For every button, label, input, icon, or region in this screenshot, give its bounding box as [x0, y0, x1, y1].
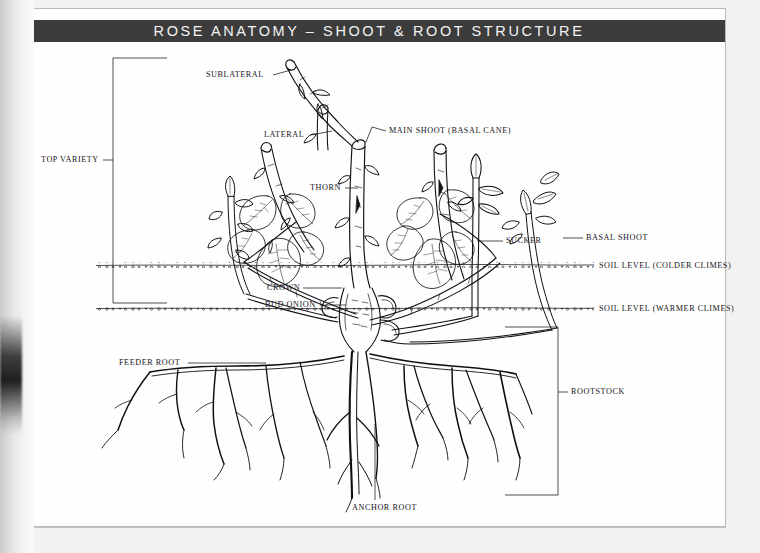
right-cane: [422, 144, 464, 280]
label-bud-onion: BUD ONION: [265, 300, 316, 309]
label-feeder-root: FEEDER ROOT: [119, 358, 180, 367]
label-soil-level-warmer: SOIL LEVEL (WARMER CLIMES): [599, 304, 734, 313]
left-basal-bud-shoot: [208, 176, 253, 294]
label-lateral: LATERAL: [264, 130, 304, 139]
scanned-page-background: ROSE ANATOMY – SHOOT & ROOT STRUCTURE: [0, 0, 760, 553]
label-rootstock: ROOTSTOCK: [571, 387, 625, 396]
rose-anatomy-illustration: [0, 0, 760, 553]
label-thorn: THORN: [310, 183, 341, 192]
label-sublateral: SUBLATERAL: [206, 70, 264, 79]
label-crown: CROWN: [267, 283, 300, 292]
leader-lines: [103, 58, 594, 500]
root-system: [102, 352, 532, 512]
label-sucker: SUCKER: [506, 236, 542, 245]
label-main-shoot: MAIN SHOOT (BASAL CANE): [389, 126, 511, 135]
label-top-variety: TOP VARIETY: [41, 155, 99, 164]
crown-bud-union: [322, 288, 399, 352]
leaf-cluster-right: [387, 190, 496, 289]
label-soil-level-colder: SOIL LEVEL (COLDER CLIMES): [599, 261, 731, 270]
label-basal-shoot: BASAL SHOOT: [586, 233, 648, 242]
label-anchor-root: ANCHOR ROOT: [352, 503, 417, 512]
